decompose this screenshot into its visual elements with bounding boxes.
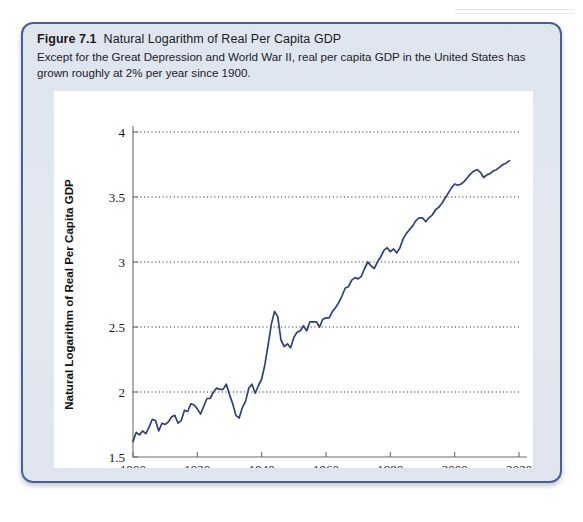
x-tick-label: 2020 bbox=[506, 462, 532, 468]
y-tick-label: 4 bbox=[119, 125, 126, 140]
y-tick-label: 2.5 bbox=[109, 320, 125, 335]
figure-subtitle: Except for the Great Depression and Worl… bbox=[37, 49, 546, 80]
figure-caption-title-line: Figure 7.1 Natural Logarithm of Real Per… bbox=[37, 31, 546, 47]
figure-title: Natural Logarithm of Real Per Capita GDP bbox=[104, 32, 342, 46]
figure-number: Figure 7.1 bbox=[37, 32, 97, 46]
y-tick-label: 3.5 bbox=[109, 190, 125, 205]
figure-box: Figure 7.1 Natural Logarithm of Real Per… bbox=[21, 22, 562, 483]
gdp-series-line bbox=[133, 161, 509, 442]
x-tick-label: 1980 bbox=[377, 462, 403, 468]
x-tick-label: 1920 bbox=[184, 462, 210, 468]
figure-caption: Figure 7.1 Natural Logarithm of Real Per… bbox=[37, 31, 546, 80]
y-axis-title: Natural Logarithm of Real Per Capita GDP bbox=[62, 179, 75, 410]
plot-panel: 1900192019401960198020002020 1.522.533.5… bbox=[54, 91, 533, 468]
axis-ticks-group bbox=[133, 132, 519, 457]
page-header-rule-secondary bbox=[455, 13, 575, 14]
axis-lines bbox=[133, 126, 527, 457]
y-tick-label: 3 bbox=[119, 255, 126, 270]
y-tick-label: 1.5 bbox=[109, 450, 125, 465]
x-tick-label: 1960 bbox=[313, 462, 339, 468]
gridlines-group bbox=[133, 132, 519, 392]
x-tick-label: 1940 bbox=[249, 462, 275, 468]
x-tick-label: 2000 bbox=[442, 462, 468, 468]
x-axis-tick-labels: 1900192019401960198020002020 bbox=[120, 462, 532, 468]
y-axis-tick-labels: 1.522.533.54 bbox=[109, 125, 126, 465]
y-tick-label: 2 bbox=[119, 385, 126, 400]
line-chart: 1900192019401960198020002020 1.522.533.5… bbox=[54, 91, 533, 468]
page-header-rule bbox=[455, 9, 575, 10]
